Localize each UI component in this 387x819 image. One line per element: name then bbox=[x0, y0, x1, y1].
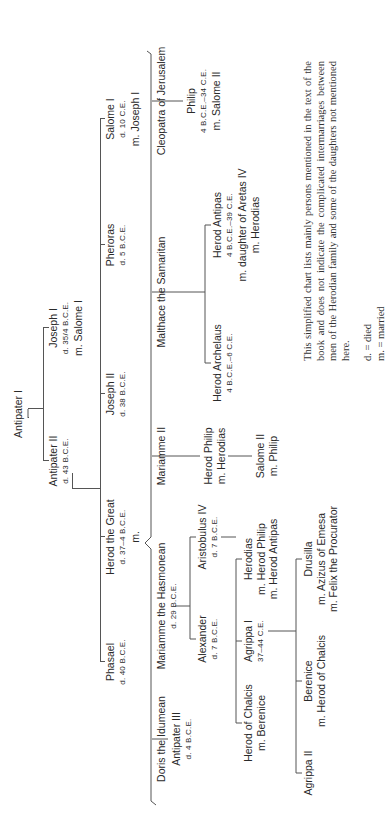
person-salome-ii: Salome II m. Philip bbox=[254, 434, 279, 478]
wife-doris: Doris the Idumean bbox=[155, 696, 168, 782]
wife-cleopatra: Cleopatra of Jerusalem bbox=[155, 47, 168, 156]
person-phasael: Phasael d. 40 B.C.E. bbox=[104, 639, 129, 685]
note-text: This simplified chart lists mainly perso… bbox=[302, 61, 352, 361]
person-drusilla: Drusilla m. Azizus of Emesa m. Felix the… bbox=[302, 506, 340, 612]
person-joseph-ii: Joseph II d. 38 B.C.E. bbox=[104, 371, 129, 417]
person-herod-of-chalcis: Herod of Chalcis m. Berenice bbox=[242, 684, 267, 762]
wife-mariamme-ii: Mariamme II bbox=[155, 427, 168, 485]
person-pheroras: Pheroras d. 5 B.C.E. bbox=[104, 224, 129, 267]
person-herodias: Herodias m. Herod Philip m. Herod Antipa… bbox=[242, 519, 280, 600]
person-herod-antipas: Herod Antipas 4 B.C.E.–39 C.E. m. daught… bbox=[211, 168, 261, 281]
person-herod-archelaus: Herod Archelaus 4 B.C.E.–6 C.E. bbox=[211, 324, 236, 402]
person-berenice: Berenice m. Herod of Chalcis bbox=[302, 635, 327, 727]
person-agrippa-i: Agrippa I 37–44 C.E. bbox=[242, 620, 267, 662]
person-philip: Philip 4 B.C.E.–34 C.E. m. Salome II bbox=[185, 69, 223, 133]
person-herod-the-great: Herod the Great d. 37–4 B.C.E. m. bbox=[104, 499, 142, 574]
person-antipater-iii: Antipater III d. 4 B.C.E. bbox=[170, 712, 195, 766]
wife-mariamme-hasmonean: Mariamme the Hasmonean d. 29 B.C.E. bbox=[155, 543, 180, 670]
person-joseph-i: Joseph I d. 35/4 B.C.E. m. Salome I bbox=[47, 300, 85, 356]
person-aristobulus-iv: Aristobulus IV d. 7 B.C.E. bbox=[196, 505, 221, 570]
person-antipater-ii: Antipater II d. 43 B.C.E. bbox=[47, 436, 72, 487]
legend-married: m. = married bbox=[375, 61, 387, 361]
person-herod-philip: Herod Philip m. Herodias bbox=[202, 427, 227, 484]
wife-malthace: Malthace the Samaritan bbox=[155, 237, 168, 348]
legend-died: d. = died bbox=[362, 61, 375, 361]
person-agrippa-ii: Agrippa II bbox=[302, 751, 315, 796]
person-antipater-i: Antipater I bbox=[12, 390, 25, 438]
person-alexander: Alexander d. 7 B.C.E. bbox=[196, 615, 221, 662]
person-salome-i: Salome I d. 10 C.E. m. Joseph I bbox=[104, 92, 142, 146]
chart-note: This simplified chart lists mainly perso… bbox=[302, 61, 387, 361]
